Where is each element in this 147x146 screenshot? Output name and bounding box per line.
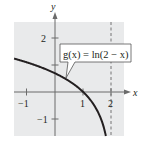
plot-background	[14, 22, 124, 136]
x-tick-label: 2	[108, 98, 113, 109]
function-label: g(x) = ln(2 − x)	[63, 49, 129, 61]
x-axis-arrow-icon	[124, 90, 131, 95]
y-tick-label: −1	[37, 114, 48, 125]
x-tick-label: 1	[80, 98, 85, 109]
x-axis-label: x	[132, 87, 138, 98]
y-tick-label: 2	[41, 33, 46, 44]
y-axis-label: y	[50, 1, 56, 12]
function-graph: x y −1 1 2 2 −1 g(x) = ln(2 − x)	[0, 0, 147, 146]
y-axis-arrow-icon	[53, 12, 58, 19]
x-tick-label: −1	[18, 98, 29, 109]
